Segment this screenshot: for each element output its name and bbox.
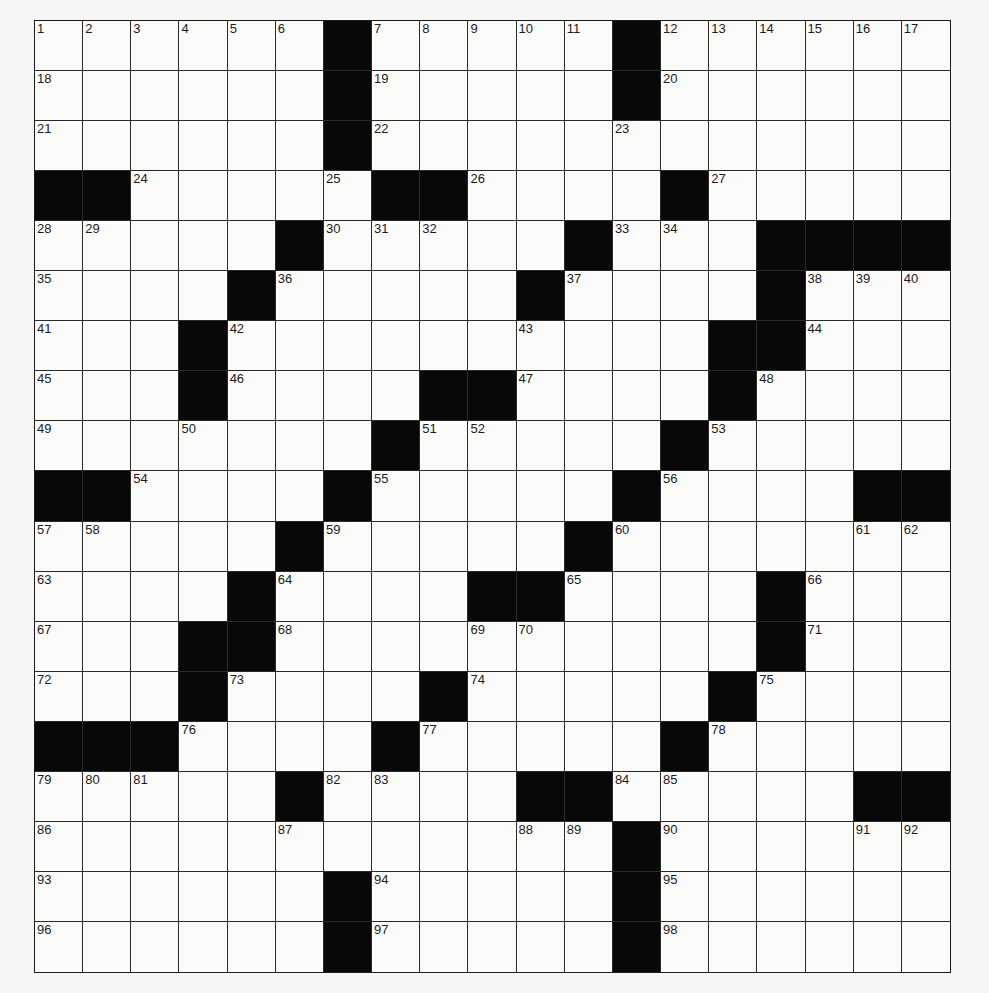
- grid-cell[interactable]: [420, 121, 468, 171]
- grid-cell[interactable]: 42: [228, 321, 276, 371]
- grid-cell[interactable]: [420, 321, 468, 371]
- grid-cell[interactable]: [517, 872, 565, 922]
- grid-cell[interactable]: [468, 321, 516, 371]
- grid-cell[interactable]: 34: [661, 221, 709, 271]
- grid-cell[interactable]: [709, 772, 757, 822]
- grid-cell[interactable]: [613, 421, 661, 471]
- grid-cell[interactable]: [276, 922, 324, 972]
- grid-cell[interactable]: [228, 71, 276, 121]
- grid-cell[interactable]: [902, 672, 950, 722]
- grid-cell[interactable]: 5: [228, 21, 276, 71]
- grid-cell[interactable]: 29: [83, 221, 131, 271]
- grid-cell[interactable]: 89: [565, 822, 613, 872]
- grid-cell[interactable]: [854, 722, 902, 772]
- grid-cell[interactable]: 2: [83, 21, 131, 71]
- grid-cell[interactable]: [517, 522, 565, 572]
- grid-cell[interactable]: 26: [468, 171, 516, 221]
- grid-cell[interactable]: [131, 672, 179, 722]
- grid-cell[interactable]: 76: [179, 722, 227, 772]
- grid-cell[interactable]: [324, 421, 372, 471]
- grid-cell[interactable]: 24: [131, 171, 179, 221]
- grid-cell[interactable]: [131, 271, 179, 321]
- grid-cell[interactable]: [131, 922, 179, 972]
- grid-cell[interactable]: 85: [661, 772, 709, 822]
- grid-cell[interactable]: 84: [613, 772, 661, 822]
- grid-cell[interactable]: [372, 672, 420, 722]
- grid-cell[interactable]: [420, 522, 468, 572]
- grid-cell[interactable]: [902, 321, 950, 371]
- grid-cell[interactable]: 96: [35, 922, 83, 972]
- grid-cell[interactable]: [806, 171, 854, 221]
- grid-cell[interactable]: [228, 522, 276, 572]
- grid-cell[interactable]: [517, 121, 565, 171]
- grid-cell[interactable]: [131, 121, 179, 171]
- grid-cell[interactable]: [565, 321, 613, 371]
- grid-cell[interactable]: [854, 71, 902, 121]
- grid-cell[interactable]: [661, 522, 709, 572]
- grid-cell[interactable]: [228, 872, 276, 922]
- grid-cell[interactable]: 66: [806, 572, 854, 622]
- grid-cell[interactable]: [228, 221, 276, 271]
- grid-cell[interactable]: [372, 572, 420, 622]
- grid-cell[interactable]: 81: [131, 772, 179, 822]
- grid-cell[interactable]: [276, 872, 324, 922]
- grid-cell[interactable]: [324, 622, 372, 672]
- grid-cell[interactable]: 93: [35, 872, 83, 922]
- grid-cell[interactable]: 87: [276, 822, 324, 872]
- grid-cell[interactable]: [228, 421, 276, 471]
- grid-cell[interactable]: [806, 672, 854, 722]
- grid-cell[interactable]: 6: [276, 21, 324, 71]
- grid-cell[interactable]: [902, 922, 950, 972]
- grid-cell[interactable]: 75: [757, 672, 805, 722]
- grid-cell[interactable]: 33: [613, 221, 661, 271]
- grid-cell[interactable]: [806, 121, 854, 171]
- grid-cell[interactable]: [565, 622, 613, 672]
- grid-cell[interactable]: 30: [324, 221, 372, 271]
- grid-cell[interactable]: [565, 722, 613, 772]
- grid-cell[interactable]: [854, 421, 902, 471]
- grid-cell[interactable]: 80: [83, 772, 131, 822]
- grid-cell[interactable]: [179, 221, 227, 271]
- grid-cell[interactable]: [468, 822, 516, 872]
- grid-cell[interactable]: 68: [276, 622, 324, 672]
- grid-cell[interactable]: [709, 271, 757, 321]
- grid-cell[interactable]: 13: [709, 21, 757, 71]
- grid-cell[interactable]: 37: [565, 271, 613, 321]
- grid-cell[interactable]: 77: [420, 722, 468, 772]
- grid-cell[interactable]: [709, 121, 757, 171]
- grid-cell[interactable]: [757, 71, 805, 121]
- grid-cell[interactable]: 12: [661, 21, 709, 71]
- grid-cell[interactable]: [179, 872, 227, 922]
- grid-cell[interactable]: [372, 622, 420, 672]
- grid-cell[interactable]: [902, 371, 950, 421]
- grid-cell[interactable]: 20: [661, 71, 709, 121]
- grid-cell[interactable]: [806, 71, 854, 121]
- grid-cell[interactable]: 78: [709, 722, 757, 772]
- grid-cell[interactable]: 4: [179, 21, 227, 71]
- grid-cell[interactable]: [420, 71, 468, 121]
- grid-cell[interactable]: [565, 421, 613, 471]
- grid-cell[interactable]: [420, 772, 468, 822]
- grid-cell[interactable]: [179, 522, 227, 572]
- grid-cell[interactable]: 18: [35, 71, 83, 121]
- grid-cell[interactable]: 19: [372, 71, 420, 121]
- grid-cell[interactable]: [757, 772, 805, 822]
- grid-cell[interactable]: 61: [854, 522, 902, 572]
- grid-cell[interactable]: [468, 121, 516, 171]
- grid-cell[interactable]: [420, 271, 468, 321]
- grid-cell[interactable]: [276, 371, 324, 421]
- grid-cell[interactable]: 79: [35, 772, 83, 822]
- grid-cell[interactable]: [372, 371, 420, 421]
- grid-cell[interactable]: 28: [35, 221, 83, 271]
- grid-cell[interactable]: 53: [709, 421, 757, 471]
- grid-cell[interactable]: [709, 872, 757, 922]
- grid-cell[interactable]: [806, 772, 854, 822]
- grid-cell[interactable]: [757, 872, 805, 922]
- grid-cell[interactable]: [83, 672, 131, 722]
- grid-cell[interactable]: 17: [902, 21, 950, 71]
- grid-cell[interactable]: [324, 722, 372, 772]
- grid-cell[interactable]: [83, 271, 131, 321]
- grid-cell[interactable]: [854, 121, 902, 171]
- grid-cell[interactable]: [757, 121, 805, 171]
- grid-cell[interactable]: [228, 772, 276, 822]
